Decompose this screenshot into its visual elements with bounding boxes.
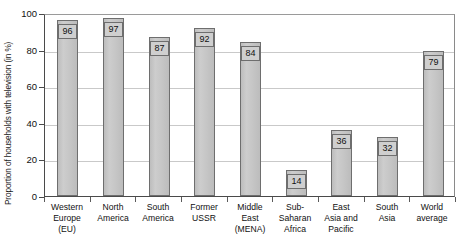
y-axis-title: Proportion of households with television… xyxy=(2,5,16,205)
y-axis-tick-label: 80 xyxy=(7,46,37,56)
bar xyxy=(149,37,170,196)
y-axis-tick-label: 40 xyxy=(7,119,37,129)
y-axis-tick-label: 60 xyxy=(7,82,37,92)
bar-value-label: 92 xyxy=(195,32,214,47)
bar-value-label: 96 xyxy=(58,24,77,39)
bar-value-label: 32 xyxy=(378,141,397,156)
y-axis-tick-label-wrap: 40 xyxy=(0,119,37,129)
y-axis-tick-label: 0 xyxy=(7,192,37,202)
y-axis-tick-label: 100 xyxy=(7,9,37,19)
y-axis-tick-label: 20 xyxy=(7,155,37,165)
bar-chart: Proportion of households with television… xyxy=(0,0,465,251)
x-axis-category-label: South America xyxy=(135,202,181,224)
bar-value-label: 36 xyxy=(332,134,351,149)
bar xyxy=(57,20,78,196)
y-axis-tick-label-wrap: 60 xyxy=(0,82,37,92)
y-axis-tick-label-wrap: 0 xyxy=(0,192,37,202)
bar xyxy=(240,42,261,196)
bar-value-label: 97 xyxy=(104,22,123,37)
x-axis-category-label: South Asia xyxy=(364,202,410,224)
bar-value-label: 84 xyxy=(241,46,260,61)
y-axis-tick-label-wrap: 80 xyxy=(0,46,37,56)
bar-value-label: 14 xyxy=(287,174,306,189)
x-axis-category-label: Middle East (MENA) xyxy=(227,202,273,236)
bar xyxy=(423,51,444,196)
x-axis-tick xyxy=(455,197,456,202)
plot-area: 969787928414363279 xyxy=(44,14,455,197)
y-axis-tick-label-wrap: 100 xyxy=(0,9,37,19)
bar-value-label: 79 xyxy=(424,55,443,70)
x-axis-category-label: East Asia and Pacific xyxy=(318,202,364,236)
bar xyxy=(194,28,215,196)
bar xyxy=(103,18,124,196)
x-axis-category-label: World average xyxy=(409,202,455,224)
x-axis-category-label: Sub- Saharan Africa xyxy=(272,202,318,236)
y-axis-tick-label-wrap: 20 xyxy=(0,155,37,165)
x-axis-category-label: Western Europe (EU) xyxy=(44,202,90,236)
x-axis-category-label: North America xyxy=(90,202,136,224)
bar-value-label: 87 xyxy=(150,41,169,56)
x-axis-category-label: Former USSR xyxy=(181,202,227,224)
